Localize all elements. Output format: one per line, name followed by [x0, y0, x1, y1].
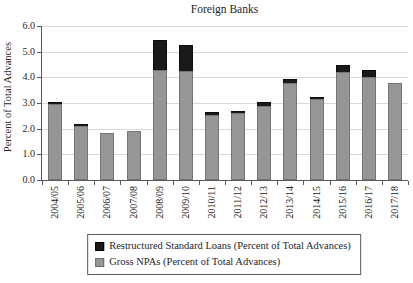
gross-npa-segment: [231, 113, 245, 180]
gross-npa-segment: [362, 77, 376, 180]
x-tick-mark: [356, 181, 357, 185]
bar-2012-13: [257, 102, 271, 180]
legend-item: Restructured Standard Loans (Percent of …: [95, 238, 351, 254]
x-tick-label: 2016/17: [363, 186, 375, 219]
x-tick-mark: [303, 181, 304, 185]
x-tick-label: 2015/16: [337, 186, 349, 219]
gridline: [42, 129, 408, 130]
legend-swatch-restructured: [95, 242, 104, 251]
gross-npa-segment: [100, 133, 114, 181]
legend-label: Gross NPAs (Percent of Total Advances): [109, 254, 280, 270]
gross-npa-segment: [48, 104, 62, 180]
legend-swatch-gross-npa: [95, 258, 104, 267]
x-tick-label: 2013/14: [284, 186, 296, 219]
restructured-segment: [179, 45, 193, 71]
x-tick-mark: [251, 181, 252, 185]
gridline: [42, 77, 408, 78]
gross-npa-segment: [205, 115, 219, 181]
restructured-segment: [336, 65, 350, 73]
x-tick-label: 2007/08: [128, 186, 140, 219]
y-tick-mark: [37, 129, 41, 130]
x-tick-label: 2009/10: [180, 186, 192, 219]
x-tick-mark: [120, 181, 121, 185]
y-tick-label: 6.0: [9, 20, 35, 32]
x-tick-mark: [199, 181, 200, 185]
bar-2013-14: [283, 79, 297, 180]
x-tick-mark: [173, 181, 174, 185]
y-tick-label: 0.0: [9, 174, 35, 186]
x-tick-mark: [408, 181, 409, 185]
bar-2004-05: [48, 102, 62, 180]
x-tick-label: 2011/12: [232, 186, 244, 218]
restructured-segment: [153, 40, 167, 70]
y-tick-mark: [37, 103, 41, 104]
y-tick-mark: [37, 180, 41, 181]
x-tick-label: 2008/09: [154, 186, 166, 219]
x-tick-label: 2012/13: [258, 186, 270, 219]
y-tick-label: 5.0: [9, 46, 35, 58]
y-tick-mark: [37, 52, 41, 53]
bar-2011-12: [231, 111, 245, 180]
chart-title: Foreign Banks: [41, 3, 408, 15]
x-tick-label: 2017/18: [389, 186, 401, 219]
x-tick-label: 2006/07: [101, 186, 113, 219]
gross-npa-segment: [179, 71, 193, 180]
bar-2010-11: [205, 112, 219, 180]
x-tick-label: 2010/11: [206, 186, 218, 218]
bar-2007-08: [127, 131, 141, 180]
x-tick-mark: [382, 181, 383, 185]
y-tick-mark: [37, 154, 41, 155]
gross-npa-segment: [257, 106, 271, 180]
gross-npa-segment: [310, 99, 324, 180]
plot-area: 0.01.02.03.04.05.06.02004/052005/062006/…: [41, 26, 408, 181]
gridline: [42, 103, 408, 104]
gross-npa-segment: [127, 131, 141, 180]
gridline: [42, 154, 408, 155]
legend-box: Restructured Standard Loans (Percent of …: [87, 234, 361, 275]
y-tick-mark: [37, 77, 41, 78]
y-tick-mark: [37, 26, 41, 27]
x-tick-mark: [277, 181, 278, 185]
gross-npa-segment: [153, 70, 167, 180]
x-tick-mark: [42, 181, 43, 185]
gross-npa-segment: [283, 83, 297, 181]
x-tick-mark: [68, 181, 69, 185]
bar-2009-10: [179, 45, 193, 180]
bar-2015-16: [336, 65, 350, 180]
bar-2008-09: [153, 40, 167, 180]
gridline: [42, 26, 408, 27]
bar-2014-15: [310, 97, 324, 180]
bar-2006-07: [100, 133, 114, 181]
y-tick-label: 2.0: [9, 123, 35, 135]
gross-npa-segment: [74, 126, 88, 180]
legend-label: Restructured Standard Loans (Percent of …: [109, 238, 351, 254]
y-tick-label: 4.0: [9, 71, 35, 83]
x-tick-mark: [147, 181, 148, 185]
x-tick-mark: [94, 181, 95, 185]
gross-npa-segment: [336, 72, 350, 180]
x-tick-label: 2014/15: [311, 186, 323, 219]
y-tick-label: 1.0: [9, 148, 35, 160]
x-tick-label: 2005/06: [75, 186, 87, 219]
restructured-segment: [362, 70, 376, 78]
x-tick-mark: [330, 181, 331, 185]
stacked-bar-chart: Foreign Banks Percent of Total Advances …: [0, 0, 413, 283]
gross-npa-segment: [388, 83, 402, 181]
x-tick-label: 2004/05: [49, 186, 61, 219]
gridline: [42, 52, 408, 53]
x-tick-mark: [225, 181, 226, 185]
bar-2016-17: [362, 70, 376, 180]
legend-item: Gross NPAs (Percent of Total Advances): [95, 254, 351, 270]
bar-2005-06: [74, 124, 88, 180]
y-tick-label: 3.0: [9, 97, 35, 109]
bar-2017-18: [388, 83, 402, 181]
